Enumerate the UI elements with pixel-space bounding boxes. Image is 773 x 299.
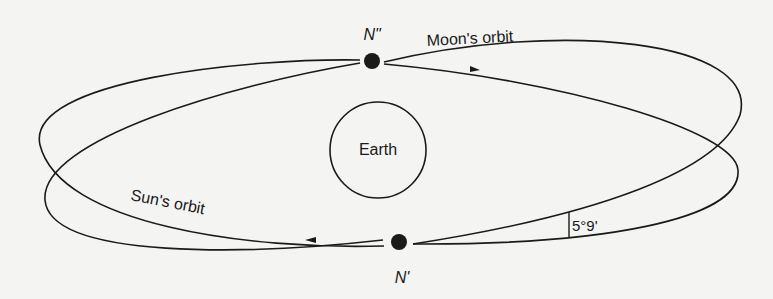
node-descending-label: N' — [395, 269, 411, 286]
orbit-diagram: Earth N" N' Moon's orbit Sun's orbit 5°9… — [0, 0, 773, 299]
earth-label: Earth — [359, 141, 397, 158]
inclination-label: 5°9' — [572, 217, 598, 234]
sun-orbit-label: Sun's orbit — [129, 186, 207, 217]
node-descending-dot — [391, 234, 407, 250]
orbit-diagram-svg: Earth N" N' Moon's orbit Sun's orbit 5°9… — [0, 0, 773, 299]
moon-direction-arrow-icon — [470, 66, 480, 72]
moon-orbit-label: Moon's orbit — [426, 27, 514, 49]
node-ascending-dot — [364, 53, 380, 69]
sun-direction-arrow-icon — [305, 237, 316, 243]
node-ascending-label: N" — [363, 26, 382, 43]
